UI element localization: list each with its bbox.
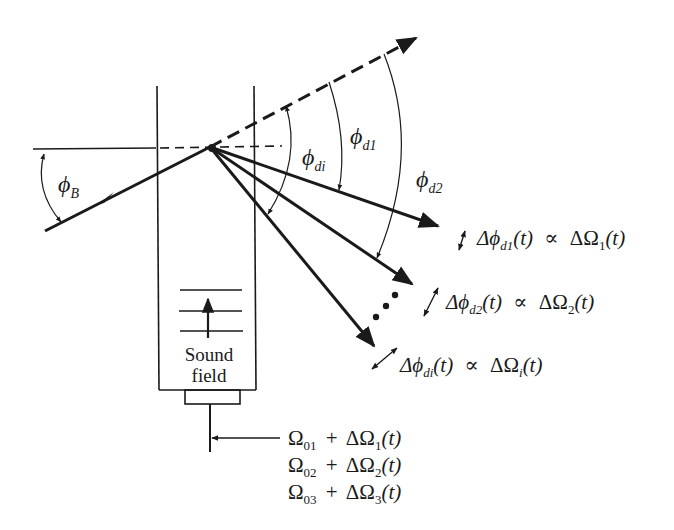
acousto-optic-deflector-diagram: Sound field ϕB ϕdi ϕd1 ϕd2 Δϕd1( [0, 0, 674, 530]
deflection-angle-arcs [268, 54, 401, 258]
drive-frequency-1: Ω01 + ΔΩ1(t) [288, 426, 401, 455]
sound-label: Sound [185, 344, 234, 365]
focus-point [208, 144, 216, 152]
ellipsis-dots [373, 292, 398, 320]
drive-frequency-3: Ω03 + ΔΩ3(t) [288, 480, 401, 509]
relation-d1: Δϕd1(t) ∝ ΔΩ1(t) [476, 226, 625, 253]
undiffracted-beam [210, 38, 416, 147]
phi-d1-label: ϕd1 [350, 123, 376, 153]
acousto-optic-cell [157, 86, 256, 452]
diffracted-beams [210, 147, 438, 346]
relation-d2: Δϕd2(t) ∝ ΔΩ2(t) [445, 290, 594, 317]
phi-di-label: ϕdi [302, 144, 325, 174]
bragg-angle-label: ϕB [58, 171, 79, 201]
relation-di: Δϕdi(t) ∝ ΔΩi(t) [399, 353, 542, 380]
phi-d1-arc [329, 82, 342, 190]
sound-field-wavefronts [179, 290, 243, 338]
phi-di-arc [268, 106, 291, 214]
phi-d2-arc [377, 54, 401, 258]
field-label: field [192, 365, 227, 386]
drive-frequency-2: Ω02 + ΔΩ2(t) [288, 453, 401, 482]
phi-d2-label: ϕd2 [416, 166, 442, 196]
